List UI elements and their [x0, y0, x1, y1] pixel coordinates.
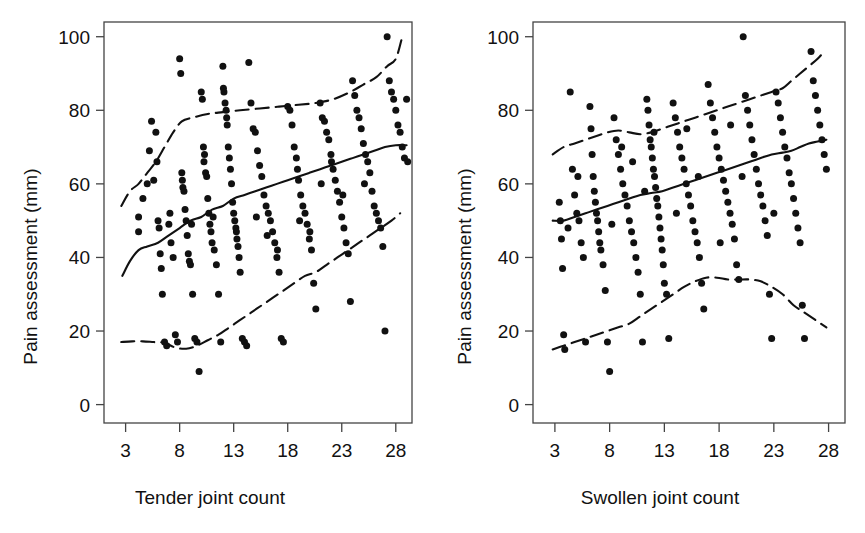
- data-point: [567, 88, 574, 95]
- data-point: [135, 213, 142, 220]
- data-point: [606, 368, 613, 375]
- data-point: [236, 254, 243, 261]
- data-point: [299, 202, 306, 209]
- data-point: [727, 122, 734, 129]
- data-point: [777, 114, 784, 121]
- data-point: [243, 342, 250, 349]
- data-point: [720, 177, 727, 184]
- data-point: [651, 173, 658, 180]
- x-tick-label: 28: [818, 440, 839, 461]
- data-point: [165, 221, 172, 228]
- data-point: [594, 217, 601, 224]
- data-point: [588, 125, 595, 132]
- data-point: [799, 302, 806, 309]
- data-point: [770, 210, 777, 217]
- data-point: [556, 199, 563, 206]
- data-point: [624, 202, 631, 209]
- data-point: [203, 173, 210, 180]
- data-point: [812, 92, 819, 99]
- data-point: [724, 199, 731, 206]
- data-point: [629, 158, 636, 165]
- data-point: [626, 217, 633, 224]
- plot-area-left: 0204060801003813182328: [0, 0, 432, 470]
- data-point: [157, 250, 164, 257]
- data-point: [729, 221, 736, 228]
- data-point: [586, 103, 593, 110]
- data-point: [709, 114, 716, 121]
- data-point: [280, 339, 287, 346]
- data-point: [345, 250, 352, 257]
- x-tick-label: 13: [223, 440, 244, 461]
- data-point: [187, 261, 194, 268]
- data-point: [814, 107, 821, 114]
- data-point: [156, 225, 163, 232]
- data-point: [808, 48, 815, 55]
- data-point: [821, 151, 828, 158]
- data-point: [733, 261, 740, 268]
- data-point: [223, 114, 230, 121]
- data-point: [711, 129, 718, 136]
- data-point: [179, 177, 186, 184]
- data-point: [683, 125, 690, 132]
- data-point: [135, 228, 142, 235]
- data-point: [360, 140, 367, 147]
- data-point: [717, 239, 724, 246]
- x-axis-label-left: Tender joint count: [0, 487, 426, 509]
- data-point: [332, 177, 339, 184]
- data-point: [158, 265, 165, 272]
- data-point: [220, 85, 227, 92]
- data-point: [748, 136, 755, 143]
- data-point: [788, 180, 795, 187]
- data-point: [168, 239, 175, 246]
- data-point: [339, 191, 346, 198]
- data-point: [621, 191, 628, 198]
- data-point: [739, 173, 746, 180]
- data-point: [618, 144, 625, 151]
- data-point: [650, 166, 657, 173]
- data-point: [740, 33, 747, 40]
- data-point: [801, 335, 808, 342]
- data-point: [571, 191, 578, 198]
- data-point: [230, 210, 237, 217]
- data-point: [233, 236, 240, 243]
- data-point: [222, 99, 229, 106]
- data-point: [722, 188, 729, 195]
- data-point: [264, 232, 271, 239]
- data-point: [658, 236, 665, 243]
- data-point: [816, 122, 823, 129]
- data-point: [653, 195, 660, 202]
- data-point: [217, 339, 224, 346]
- data-point: [289, 122, 296, 129]
- data-point: [794, 225, 801, 232]
- data-point: [753, 166, 760, 173]
- y-tick-label: 60: [69, 174, 90, 195]
- data-point: [755, 180, 762, 187]
- data-point: [373, 210, 380, 217]
- data-point: [384, 33, 391, 40]
- data-point: [696, 254, 703, 261]
- data-point: [318, 180, 325, 187]
- percentile-curve: [553, 51, 824, 154]
- data-point: [375, 217, 382, 224]
- data-point: [364, 158, 371, 165]
- data-point: [306, 236, 313, 243]
- data-point: [206, 221, 213, 228]
- data-point: [325, 136, 332, 143]
- data-point: [343, 239, 350, 246]
- data-point: [648, 144, 655, 151]
- data-point: [619, 180, 626, 187]
- y-tick-label: 80: [498, 100, 519, 121]
- data-point: [139, 195, 146, 202]
- x-axis-label-right: Swollen joint count: [500, 487, 820, 509]
- data-point: [178, 169, 185, 176]
- data-point: [235, 243, 242, 250]
- data-point: [644, 107, 651, 114]
- data-point: [727, 210, 734, 217]
- data-point: [768, 335, 775, 342]
- data-point: [655, 213, 662, 220]
- data-point: [775, 99, 782, 106]
- data-point: [276, 269, 283, 276]
- data-point: [353, 107, 360, 114]
- data-point: [654, 202, 661, 209]
- data-point: [597, 247, 604, 254]
